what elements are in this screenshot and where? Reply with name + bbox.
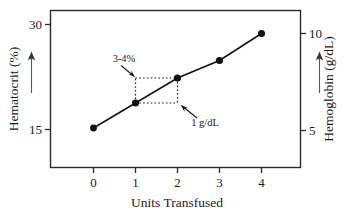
x-tick-label-0: 0 (90, 175, 97, 190)
x-tick-label-1: 1 (132, 175, 139, 190)
y-axis-title: Hematocrit (%) (6, 47, 21, 131)
right-tick-label-5: 5 (309, 123, 316, 138)
x-axis-title: Units Transfused (131, 195, 223, 210)
data-point (132, 99, 139, 106)
data-point (258, 30, 265, 37)
chart-svg: 30 15 10 5 0 1 2 3 4 Units Transfused He… (0, 0, 344, 214)
y2-axis-title: Hemoglobin (g/dL) (321, 36, 336, 141)
annotation-label-hct: 3-4% (113, 53, 136, 64)
x-tick-label-2: 2 (174, 175, 181, 190)
x-tick-label-3: 3 (216, 175, 223, 190)
left-tick-label-30: 30 (29, 17, 42, 32)
chart-figure: 30 15 10 5 0 1 2 3 4 Units Transfused He… (0, 0, 344, 214)
annotation-label-hgb: 1 g/dL (191, 117, 219, 128)
left-axis-up-arrow-icon (28, 52, 35, 94)
data-point (216, 57, 223, 64)
left-tick-label-15: 15 (29, 122, 42, 137)
data-point (90, 125, 97, 132)
x-tick-label-4: 4 (258, 175, 265, 190)
data-point (174, 74, 181, 81)
